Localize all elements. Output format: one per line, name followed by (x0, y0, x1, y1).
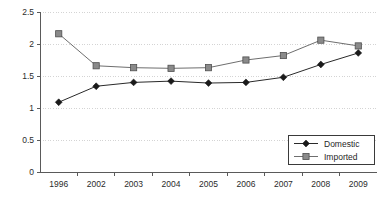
x-axis-label-2007: 2007 (274, 179, 293, 189)
gridlines-group (40, 12, 377, 140)
chart-legend[interactable]: DomesticImported (288, 135, 374, 164)
series-line-imported (59, 34, 359, 69)
y-axis-label-1: 1 (29, 103, 34, 113)
y-axis-label-1.5: 1.5 (22, 71, 34, 81)
datapoint-imported-2005 (205, 65, 211, 71)
series-line-domestic (59, 53, 359, 102)
datapoint-imported-2003 (131, 65, 137, 71)
datapoint-domestic-2009 (355, 50, 362, 57)
datapoint-imported-2008 (318, 37, 324, 43)
x-axis-label-2002: 2002 (87, 179, 106, 189)
datapoint-domestic-2006 (243, 79, 250, 86)
y-axis-label-0.5: 0.5 (22, 135, 34, 145)
datapoint-domestic-2004 (168, 78, 175, 85)
x-axis-label-1996: 1996 (49, 179, 68, 189)
datapoint-domestic-2008 (317, 61, 324, 68)
y-axis-label-2.5: 2.5 (22, 7, 34, 17)
datapoint-domestic-2002 (93, 83, 100, 90)
legend-label-imported[interactable]: Imported (324, 152, 358, 162)
datapoint-imported-2007 (280, 52, 286, 58)
x-axis-label-2003: 2003 (124, 179, 143, 189)
x-axis-label-2005: 2005 (199, 179, 218, 189)
legend-marker-imported (303, 153, 309, 159)
datapoint-imported-1996 (56, 31, 62, 37)
legend-label-domestic[interactable]: Domestic (324, 139, 360, 149)
datapoint-domestic-1996 (55, 99, 62, 106)
x-axis-labels-group: 199620022003200420052006200720082009 (49, 179, 368, 189)
datapoint-imported-2004 (168, 65, 174, 71)
datapoint-domestic-2003 (130, 79, 137, 86)
x-axis-label-2008: 2008 (311, 179, 330, 189)
datapoint-imported-2006 (243, 57, 249, 63)
y-axis-labels-group: 00.511.522.5 (22, 7, 34, 177)
datapoint-imported-2009 (355, 43, 361, 49)
y-axis-label-2: 2 (29, 39, 34, 49)
x-axis-label-2006: 2006 (236, 179, 255, 189)
x-axis-ticks-group (77, 172, 339, 176)
line-chart: 00.511.522.5 199620022003200420052006200… (0, 0, 385, 201)
x-axis-label-2004: 2004 (162, 179, 181, 189)
datapoint-domestic-2005 (205, 80, 212, 87)
datapoint-domestic-2007 (280, 74, 287, 81)
datapoint-imported-2002 (93, 63, 99, 69)
x-axis-label-2009: 2009 (349, 179, 368, 189)
chart-canvas: 00.511.522.5 199620022003200420052006200… (0, 0, 385, 201)
y-axis-label-0: 0 (29, 167, 34, 177)
